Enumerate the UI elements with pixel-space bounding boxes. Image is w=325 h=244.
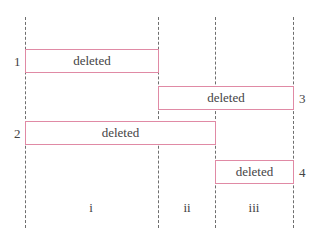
deleted-box-3: deleted xyxy=(158,86,294,110)
box-label: deleted xyxy=(207,90,245,106)
box-number-1: 1 xyxy=(14,54,21,70)
divider-line-4 xyxy=(293,17,294,228)
deleted-box-2: deleted xyxy=(25,121,216,145)
deleted-box-1: deleted xyxy=(25,49,159,73)
box-label: deleted xyxy=(102,125,140,141)
box-number-2: 2 xyxy=(14,126,21,142)
column-label-iii: iii xyxy=(234,200,274,216)
column-label-ii: ii xyxy=(167,200,207,216)
column-label-i: i xyxy=(71,200,111,216)
box-label: deleted xyxy=(236,164,274,180)
box-label: deleted xyxy=(73,53,111,69)
deleted-box-4: deleted xyxy=(215,160,294,184)
box-number-3: 3 xyxy=(299,91,306,107)
box-number-4: 4 xyxy=(299,165,306,181)
